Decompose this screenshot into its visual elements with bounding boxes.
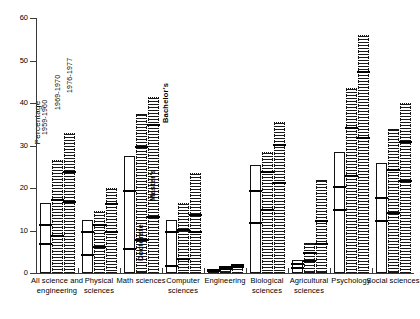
bar-body <box>64 133 75 273</box>
bar-body <box>94 211 105 273</box>
y-tick-label-10: 10 <box>6 227 28 235</box>
y-tick-label-50: 50 <box>6 57 28 65</box>
group-separator <box>120 268 121 273</box>
x-axis-line <box>36 273 414 274</box>
bar-1976-1977[interactable] <box>190 18 201 273</box>
bar-1976-1977[interactable] <box>148 18 159 273</box>
bar-group <box>330 18 372 273</box>
level-mark-masters <box>345 127 358 129</box>
level-mark-doctorate <box>93 246 106 248</box>
y-tick-label-60: 60 <box>6 14 28 22</box>
y-tick-label-30: 30 <box>6 142 28 150</box>
level-mark-masters <box>39 224 52 226</box>
bar-1969-1970[interactable] <box>94 18 105 273</box>
bar-group <box>246 18 288 273</box>
bar-body <box>262 152 273 273</box>
level-mark-doctorate <box>387 212 400 214</box>
bar-1969-1970[interactable] <box>220 18 231 273</box>
level-mark-doctorate <box>81 254 94 256</box>
bar-1959-1960[interactable] <box>40 18 51 273</box>
level-mark-doctorate <box>345 175 358 177</box>
bar-1969-1970[interactable] <box>388 18 399 273</box>
annotation-bachelor-s: Bachelor's <box>162 83 169 123</box>
group-separator <box>246 268 247 273</box>
bar-group <box>372 18 414 273</box>
bar-body <box>346 88 357 273</box>
level-mark-doctorate <box>105 231 118 233</box>
bar-1976-1977[interactable] <box>316 18 327 273</box>
level-mark-doctorate <box>291 267 304 269</box>
bar-body <box>178 203 189 273</box>
level-mark-masters <box>147 124 160 126</box>
bar-1976-1977[interactable] <box>64 18 75 273</box>
level-mark-doctorate <box>207 270 220 272</box>
group-separator <box>330 268 331 273</box>
level-mark-masters <box>357 71 370 73</box>
level-mark-masters <box>399 141 412 143</box>
group-separator <box>204 268 205 273</box>
bar-1976-1977[interactable] <box>358 18 369 273</box>
annotation-doctorate: Doctorate <box>137 224 144 261</box>
y-tick-label-0: 0 <box>6 269 28 277</box>
bar-1969-1970[interactable] <box>304 18 315 273</box>
bar-1976-1977[interactable] <box>274 18 285 273</box>
y-tick-label-40: 40 <box>6 99 28 107</box>
group-separator <box>288 268 289 273</box>
bar-group <box>204 18 246 273</box>
level-mark-masters <box>291 263 304 265</box>
level-mark-doctorate <box>249 222 262 224</box>
bar-group <box>288 18 330 273</box>
level-mark-doctorate <box>39 243 52 245</box>
bar-1969-1970[interactable] <box>262 18 273 273</box>
bar-body <box>316 180 327 274</box>
bar-1969-1970[interactable] <box>346 18 357 273</box>
bar-1969-1970[interactable] <box>52 18 63 273</box>
level-mark-masters <box>315 220 328 222</box>
group-separator <box>162 268 163 273</box>
bar-1976-1977[interactable] <box>232 18 243 273</box>
bar-1959-1960[interactable] <box>250 18 261 273</box>
level-mark-doctorate <box>303 260 316 262</box>
bar-1959-1960[interactable] <box>376 18 387 273</box>
level-mark-doctorate <box>147 216 160 218</box>
plot-area: 1959-19601969-19701976-1977Bachelor'sMas… <box>36 18 414 273</box>
bar-1959-1960[interactable] <box>124 18 135 273</box>
level-mark-doctorate <box>165 265 178 267</box>
bar-body <box>124 156 135 273</box>
bar-1959-1960[interactable] <box>208 18 219 273</box>
level-mark-doctorate <box>63 201 76 203</box>
annotation-1976-1977: 1976-1977 <box>66 58 73 93</box>
level-mark-doctorate <box>177 258 190 260</box>
level-mark-masters <box>249 190 262 192</box>
level-mark-masters <box>123 190 136 192</box>
bar-1959-1960[interactable] <box>166 18 177 273</box>
level-mark-doctorate <box>357 137 370 139</box>
level-mark-doctorate <box>273 182 286 184</box>
bar-body <box>250 165 261 273</box>
level-mark-masters <box>375 197 388 199</box>
bar-body <box>388 129 399 274</box>
bar-group <box>78 18 120 273</box>
bar-1976-1977[interactable] <box>106 18 117 273</box>
group-separator <box>78 268 79 273</box>
level-mark-doctorate <box>375 220 388 222</box>
bar-1959-1960[interactable] <box>82 18 93 273</box>
group-separator <box>372 268 373 273</box>
level-mark-doctorate <box>189 231 202 233</box>
annotation-1969-1970: 1969-1970 <box>54 75 61 110</box>
bar-1976-1977[interactable] <box>400 18 411 273</box>
level-mark-masters <box>105 203 118 205</box>
bar-body <box>190 173 201 273</box>
bar-1959-1960[interactable] <box>292 18 303 273</box>
bar-body <box>52 160 63 273</box>
bar-body <box>376 163 387 274</box>
level-mark-masters <box>303 252 316 254</box>
bar-1959-1960[interactable] <box>334 18 345 273</box>
bar-body <box>334 152 345 273</box>
level-mark-doctorate <box>261 209 274 211</box>
level-mark-masters <box>387 169 400 171</box>
bar-1969-1970[interactable] <box>178 18 189 273</box>
level-mark-doctorate <box>333 209 346 211</box>
bar-body <box>400 103 411 273</box>
